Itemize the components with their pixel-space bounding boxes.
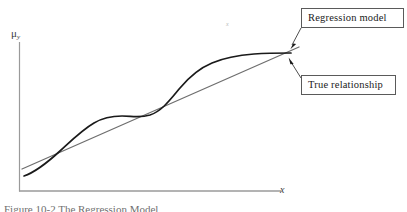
true-relationship-leader-line: [291, 62, 301, 78]
figure-caption: Figure 10-2 The Regression Model: [4, 203, 404, 212]
regression-line: [22, 47, 299, 169]
regression-model-figure: μy x x Regression model True relationshi…: [0, 0, 407, 212]
x-axis-label: x: [280, 185, 284, 195]
callout-regression-model: Regression model: [301, 8, 404, 28]
regression-leader-line: [292, 28, 301, 45]
plot-canvas: [0, 0, 407, 212]
true-relationship-curve: [24, 53, 291, 176]
callout-true-relationship: True relationship: [301, 75, 396, 95]
y-axis-label: μy: [11, 28, 20, 41]
true-relationship-arrowhead-icon: [289, 58, 294, 65]
stray-mark: x: [226, 21, 229, 27]
y-axis-label-subscript: y: [17, 33, 20, 41]
